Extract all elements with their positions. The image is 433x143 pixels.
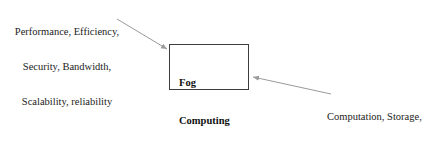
left-annotation-line-2: Security, Bandwidth, [6, 61, 128, 73]
right-capabilities-arrow [253, 77, 331, 94]
diagram-canvas: Performance, Efficiency, Security, Bandw… [0, 0, 433, 143]
left-annotation-line-1: Performance, Efficiency, [6, 26, 128, 38]
right-capabilities-annotation: Computation, Storage, Networking, Analys… [327, 87, 433, 143]
fog-computing-node-label: Fog Computing [179, 52, 230, 143]
left-attributes-annotation: Performance, Efficiency, Security, Bandw… [6, 2, 128, 132]
left-annotation-line-3: Scalability, reliability [6, 96, 128, 108]
right-annotation-line-1: Computation, Storage, [327, 111, 433, 123]
fog-computing-node: Fog Computing [169, 44, 249, 90]
node-label-line-2: Computing [179, 115, 230, 128]
node-label-line-1: Fog [179, 77, 230, 90]
